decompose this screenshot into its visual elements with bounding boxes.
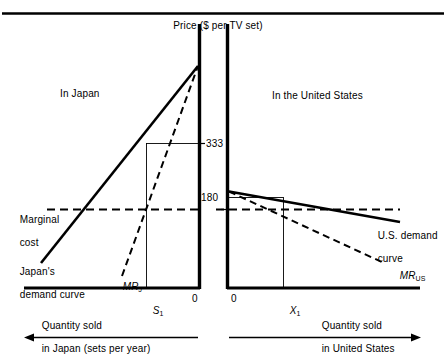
- x1-axis-label-subscript: 1: [297, 310, 301, 317]
- mr-japan-label: MRJ: [111, 269, 142, 307]
- s1-axis-label-subscript: 1: [160, 310, 164, 317]
- mr-us-label-subscript: US: [416, 275, 426, 282]
- marginal-cost-label-line1: Marginal: [20, 214, 60, 225]
- right-origin-label: 0: [231, 293, 237, 305]
- japan-demand-curve-label-line1: Japan's: [20, 266, 55, 277]
- japan-quantity-axis-label: Quantity sold in Japan (sets per year): [30, 308, 150, 358]
- price-label-180: 180: [201, 192, 218, 204]
- figure-title: Price ($ per TV set): [128, 20, 308, 32]
- x1-axis-label-text: X: [290, 305, 297, 316]
- x1-axis-label: X1: [278, 293, 301, 331]
- japan-quantity-axis-label-line2: in Japan (sets per year): [42, 343, 151, 354]
- mr-japan-label-subscript: J: [139, 286, 143, 293]
- us-quantity-axis-label-line2: in United States: [322, 343, 395, 354]
- s1-axis-label-text: S: [153, 305, 160, 316]
- mr-us-label-text: MR: [400, 270, 416, 281]
- us-quantity-axis-label: Quantity sold in United States: [310, 308, 395, 358]
- us-direction-arrow-head: [411, 334, 421, 342]
- mr-us-label: MRUS: [388, 258, 426, 296]
- mr-japan-curve: [122, 66, 198, 276]
- price-label-333: 333: [206, 138, 223, 150]
- us-demand-curve-label-line1: U.S. demand: [378, 230, 438, 241]
- panel-label-japan: In Japan: [60, 88, 100, 100]
- japan-demand-curve-label-line2: demand curve: [20, 289, 85, 300]
- japan-quantity-axis-label-line1: Quantity sold: [42, 320, 102, 331]
- panel-label-united-states: In the United States: [272, 90, 363, 102]
- left-origin-label: 0: [192, 293, 198, 305]
- mr-us-curve: [229, 192, 384, 264]
- marginal-cost-label-line2: cost: [20, 237, 39, 248]
- japan-demand-curve-label: Japan's demand curve: [8, 254, 85, 312]
- mr-japan-label-text: MR: [123, 281, 139, 292]
- us-quantity-axis-label-line1: Quantity sold: [322, 320, 382, 331]
- marginal-cost-label: Marginal cost: [8, 202, 59, 260]
